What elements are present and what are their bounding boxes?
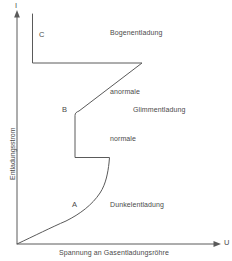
region-label-abnormal-glow: anormale (110, 88, 140, 95)
point-label-a: A (72, 201, 77, 209)
y-axis-title: Entladungsstrom (9, 127, 16, 180)
region-label-normal-glow: normale (110, 135, 136, 142)
discharge-characteristic-curve (17, 14, 142, 244)
region-label-glow-discharge: Glimmentladung (133, 106, 185, 113)
x-axis (17, 241, 221, 247)
region-label-dark-discharge: Dunkelentladung (110, 201, 164, 208)
y-axis-symbol: I (15, 2, 17, 10)
y-axis-arrow-icon (14, 10, 20, 18)
gas-discharge-characteristic-diagram: I U Entladungsstrom Spannung an Gasentla… (0, 0, 232, 261)
x-axis-symbol: U (224, 239, 230, 247)
region-label-arc-discharge: Bogenentladung (110, 29, 162, 36)
y-axis-title-container: Entladungsstrom (0, 84, 11, 180)
x-axis-arrow-icon (214, 241, 222, 247)
point-label-c: C (39, 31, 45, 39)
point-label-b: B (62, 106, 67, 114)
diagram-canvas (0, 0, 232, 261)
x-axis-title: Spannung an Gasentladungsröhre (59, 249, 169, 256)
